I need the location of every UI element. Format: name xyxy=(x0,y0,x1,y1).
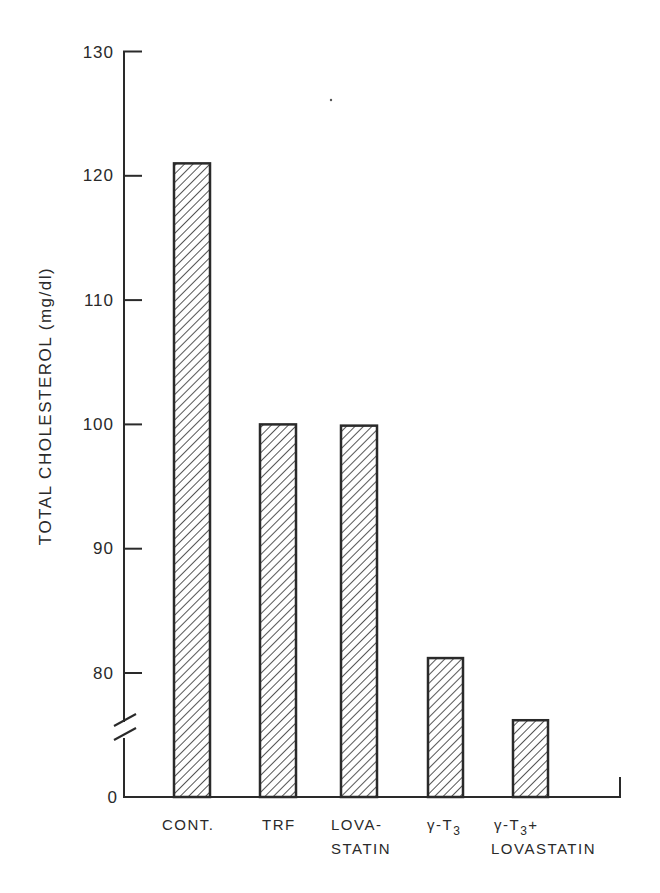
y-tick-90: 90 xyxy=(93,539,114,558)
category-label: γ-T3 xyxy=(427,816,461,838)
y-tick-80: 80 xyxy=(93,664,114,683)
y-tick-100: 100 xyxy=(83,415,114,434)
category-label: γ-T3+ xyxy=(494,816,539,838)
bar-chart: 130 120 110 100 90 80 0 TOTAL CHOLESTERO… xyxy=(0,0,660,893)
bar-3 xyxy=(341,426,377,797)
bar-5 xyxy=(513,720,548,797)
category-label: STATIN xyxy=(331,840,391,857)
bars xyxy=(174,163,548,797)
category-label: LOVASTATIN xyxy=(491,840,596,857)
bar-2 xyxy=(260,424,296,797)
bar-1 xyxy=(174,163,210,797)
y-tick-110: 110 xyxy=(84,291,114,310)
category-label: LOVA- xyxy=(331,816,382,833)
y-axis xyxy=(114,52,142,798)
y-tick-120: 120 xyxy=(83,166,114,185)
category-labels: CONT.TRFLOVA-STATINγ-T3γ-T3+LOVASTATIN xyxy=(162,816,596,857)
category-label: TRF xyxy=(262,816,296,833)
scan-speck xyxy=(330,99,332,101)
bar-4 xyxy=(428,658,463,797)
y-tick-0: 0 xyxy=(108,788,118,807)
y-axis-title: TOTAL CHOLESTEROL (mg/dl) xyxy=(36,267,55,545)
y-tick-130: 130 xyxy=(83,43,114,62)
y-tick-labels: 130 120 110 100 90 80 0 xyxy=(83,43,118,807)
category-label: CONT. xyxy=(162,816,215,833)
